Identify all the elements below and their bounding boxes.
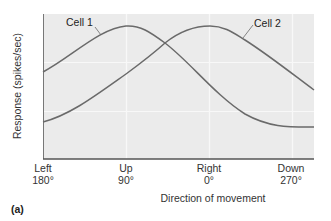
cell-2-label: Cell 2	[254, 17, 281, 29]
x-tick-up: Up 90°	[101, 162, 151, 186]
x-tick-up-degrees: 90°	[101, 174, 151, 186]
x-tick-down-direction: Down	[266, 162, 316, 174]
chart-canvas	[0, 0, 331, 221]
tuning-curve-figure: Cell 1 Cell 2 Response (spikes/sec) Left…	[0, 0, 331, 221]
x-tick-up-direction: Up	[101, 162, 151, 174]
x-tick-right: Right 0°	[184, 162, 234, 186]
x-tick-left-degrees: 180°	[18, 174, 68, 186]
x-tick-right-degrees: 0°	[184, 174, 234, 186]
x-axis-label: Direction of movement	[128, 192, 298, 204]
panel-label: (a)	[11, 203, 24, 215]
x-tick-down: Down 270°	[266, 162, 316, 186]
x-tick-left-direction: Left	[18, 162, 68, 174]
x-tick-down-degrees: 270°	[266, 174, 316, 186]
x-tick-right-direction: Right	[184, 162, 234, 174]
cell-1-label: Cell 1	[66, 16, 93, 28]
plot-area	[43, 14, 314, 159]
y-axis-label: Response (spikes/sec)	[11, 31, 23, 141]
x-tick-left: Left 180°	[18, 162, 68, 186]
